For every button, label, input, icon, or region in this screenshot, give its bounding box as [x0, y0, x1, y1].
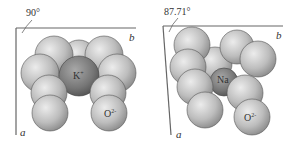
angle-leader-icon [169, 18, 178, 32]
oxide-sphere [187, 92, 223, 128]
oxide-sphere [32, 95, 68, 131]
angle-label: 90° [26, 7, 40, 18]
a-axis-line [163, 26, 171, 135]
oxide-sphere [240, 41, 276, 77]
b-axis-label: b [276, 29, 282, 41]
right-panel-naO-structure: 87.71° b a Na O2- [163, 6, 283, 140]
b-axis-label: b [129, 31, 135, 43]
a-axis-label: a [20, 126, 26, 138]
left-panel-kO-structure: 90° b a K+ O2- [16, 7, 136, 138]
a-axis-label: a [176, 128, 182, 140]
angle-leader-icon [22, 20, 32, 33]
angle-label: 87.71° [164, 6, 191, 17]
cation-label: Na [217, 74, 229, 85]
